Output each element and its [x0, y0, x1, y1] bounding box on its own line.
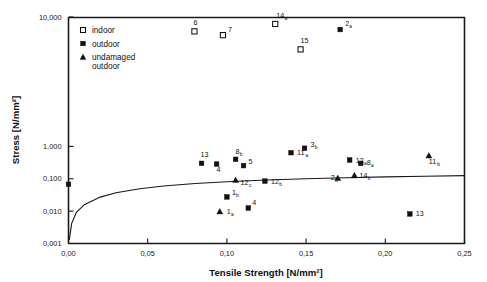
y-tick-label: 0,001: [43, 239, 62, 248]
point-label-text: 4: [252, 198, 256, 207]
point-label-text: 13: [416, 209, 424, 218]
point-label-4: 4: [217, 165, 221, 174]
point-label-13: 13: [201, 150, 209, 159]
point-label-subscript: a: [231, 212, 234, 217]
point-label-subscript: b: [279, 182, 282, 187]
point-label-text: 15: [301, 36, 309, 45]
point-label-subscript: a: [305, 153, 308, 158]
marker-indoor-14a: [273, 21, 278, 26]
marker-outdoor-5: [241, 163, 246, 168]
y-axis-title: Stress [N/mm²]: [10, 96, 21, 164]
x-tick-label: 0,05: [141, 249, 155, 258]
marker-outdoor-8b: [233, 157, 238, 162]
y-tick-label: 0,010: [43, 207, 62, 216]
legend-label: indoor: [92, 26, 115, 35]
point-label-subscript: b: [315, 145, 318, 150]
point-label-text: 11: [297, 148, 304, 157]
point-label-13: 13: [416, 209, 424, 218]
marker-outdoor-12a: [347, 158, 352, 163]
point-label-7: 7: [228, 25, 232, 34]
point-label-subscript: a: [349, 24, 352, 29]
point-label-text: 12: [271, 177, 279, 186]
point-label-subscript: a: [285, 16, 288, 21]
marker-indoor-15: [298, 47, 303, 52]
chart-background: [0, 0, 487, 282]
point-label-subscript: b: [240, 152, 243, 157]
marker-outdoor-2a: [338, 27, 343, 32]
legend-filled-square-icon: [81, 41, 86, 46]
point-label-text: 6: [193, 18, 197, 27]
marker-outdoor-axis: [66, 182, 71, 187]
point-label-subscript: b: [236, 193, 239, 198]
y-tick-label: 0,100: [43, 174, 62, 183]
x-tick-label: 0,20: [378, 249, 392, 258]
point-label-text: 5: [249, 157, 253, 166]
x-axis-title: Tensile Strength [N/mm²]: [209, 267, 322, 278]
point-label-text: 4: [217, 165, 221, 174]
x-tick-label: 0,10: [220, 249, 234, 258]
point-label-subscript: a: [371, 163, 374, 168]
marker-outdoor-4: [246, 206, 251, 211]
point-label-subscript: b: [368, 176, 371, 181]
marker-indoor-7: [220, 33, 225, 38]
x-tick-label: 0,15: [299, 249, 313, 258]
scatter-plot-svg: 0,0010,0100,1001,00010,000 0,000,050,100…: [0, 0, 487, 282]
marker-indoor-6: [192, 29, 197, 34]
x-tick-label: 0,00: [61, 249, 75, 258]
legend-label-line2: outdoor: [92, 62, 120, 71]
point-label-15: 15: [301, 36, 309, 45]
point-label-subscript: b: [335, 178, 338, 183]
point-label-text: 11: [429, 157, 436, 166]
legend-label: undamaged: [92, 53, 136, 62]
point-label-text: 14: [359, 171, 367, 180]
point-label-4: 4: [252, 198, 256, 207]
legend-label: outdoor: [92, 40, 120, 49]
legend-open-square-icon: [81, 28, 86, 33]
chart-figure: 0,0010,0100,1001,00010,000 0,000,050,100…: [0, 0, 487, 282]
marker-outdoor-12b: [263, 179, 268, 184]
marker-outdoor-11a: [289, 150, 294, 155]
point-label-5: 5: [249, 157, 253, 166]
point-label-6: 6: [193, 18, 197, 27]
y-tick-label: 1,000: [43, 142, 62, 151]
point-label-text: 14: [276, 11, 284, 20]
marker-outdoor-13: [199, 161, 204, 166]
marker-outdoor-1b: [225, 195, 230, 200]
point-label-subscript: b: [437, 162, 440, 167]
x-tick-label: 0,25: [457, 249, 471, 258]
point-label-text: 13: [201, 150, 209, 159]
point-label-text: 12: [241, 178, 249, 187]
y-tick-label: 10,000: [39, 13, 62, 22]
marker-outdoor-13: [408, 212, 413, 217]
point-label-text: 7: [228, 25, 232, 34]
point-label-text: 12: [356, 156, 364, 165]
